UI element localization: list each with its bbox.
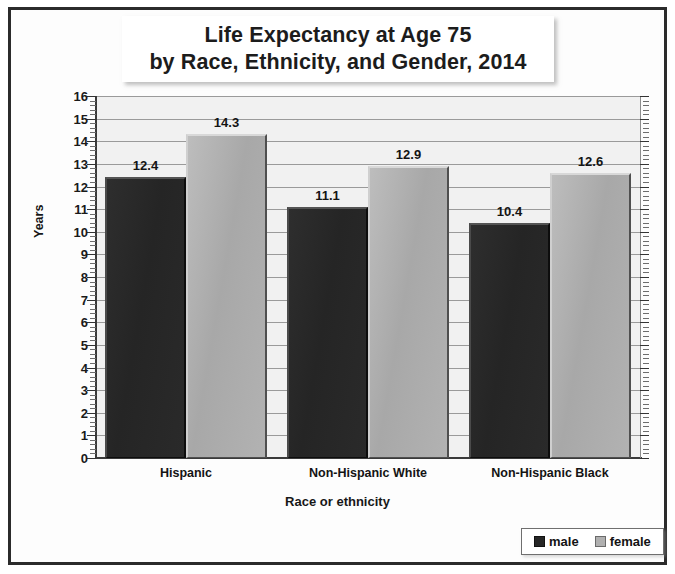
legend-swatch-icon [534, 536, 545, 547]
axis-tick-minor [90, 372, 96, 373]
axis-tick-major [87, 119, 96, 120]
bar-value-label: 12.9 [368, 147, 449, 162]
axis-tick-major [640, 164, 649, 165]
axis-tick-major [87, 413, 96, 414]
axis-tick-minor [643, 114, 649, 115]
axis-tick-minor [643, 336, 649, 337]
axis-tick-minor [643, 381, 649, 382]
axis-tick-minor [643, 404, 649, 405]
y-axis-tick-label: 9 [62, 248, 88, 261]
legend-swatch-icon [595, 536, 606, 547]
y-axis-tick-label: 4 [62, 362, 88, 375]
axis-tick-minor [90, 363, 96, 364]
axis-tick-minor [90, 377, 96, 378]
axis-tick-minor [90, 381, 96, 382]
axis-tick-minor [90, 318, 96, 319]
chart-title-box: Life Expectancy at Age 75 by Race, Ethni… [122, 16, 554, 82]
axis-tick-minor [90, 426, 96, 427]
axis-tick-minor [90, 286, 96, 287]
axis-tick-minor [90, 123, 96, 124]
axis-tick-minor [90, 295, 96, 296]
axis-tick-minor [90, 440, 96, 441]
axis-tick-minor [643, 132, 649, 133]
axis-tick-minor [643, 150, 649, 151]
y-axis-tick-label: 1 [62, 429, 88, 442]
axis-tick-major [640, 96, 649, 97]
x-axis-title: Race or ethnicity [0, 494, 675, 509]
bar-value-label: 11.1 [287, 188, 368, 203]
axis-tick-minor [643, 101, 649, 102]
axis-tick-major [640, 322, 649, 323]
axis-tick-major [87, 209, 96, 210]
axis-tick-minor [90, 146, 96, 147]
axis-tick-minor [90, 250, 96, 251]
axis-tick-minor [643, 349, 649, 350]
axis-tick-minor [643, 196, 649, 197]
axis-tick-minor [643, 444, 649, 445]
axis-tick-minor [643, 426, 649, 427]
axis-tick-minor [90, 101, 96, 102]
y-axis-tick-label: 2 [62, 407, 88, 420]
axis-tick-minor [90, 150, 96, 151]
axis-tick-minor [90, 137, 96, 138]
axis-tick-minor [90, 159, 96, 160]
y-axis-tick-label: 11 [62, 203, 88, 216]
axis-tick-minor [643, 272, 649, 273]
axis-tick-major [640, 300, 649, 301]
axis-tick-minor [90, 358, 96, 359]
axis-tick-minor [90, 263, 96, 264]
axis-tick-minor [90, 268, 96, 269]
axis-tick-minor [643, 214, 649, 215]
axis-tick-minor [643, 313, 649, 314]
axis-tick-minor [90, 223, 96, 224]
axis-tick-minor [90, 272, 96, 273]
chart-legend: malefemale [521, 528, 664, 555]
axis-tick-major [87, 254, 96, 255]
legend-item-female[interactable]: female [595, 534, 651, 549]
axis-tick-minor [90, 218, 96, 219]
x-axis-category-label: Non-Hispanic White [277, 466, 459, 480]
axis-tick-major [87, 345, 96, 346]
axis-tick-minor [90, 214, 96, 215]
chart-title-line-1: Life Expectancy at Age 75 [205, 22, 472, 49]
axis-tick-minor [90, 327, 96, 328]
y-axis-tick-label: 16 [62, 90, 88, 103]
axis-tick-minor [90, 227, 96, 228]
y-axis-tick-label: 5 [62, 339, 88, 352]
y-axis-tick-label: 3 [62, 384, 88, 397]
axis-tick-minor [643, 422, 649, 423]
axis-tick-major [87, 390, 96, 391]
bar-female-non-hispanic-white [368, 166, 449, 458]
axis-tick-minor [90, 200, 96, 201]
legend-label: male [549, 534, 579, 549]
axis-tick-major [640, 390, 649, 391]
y-axis-tick-label: 7 [62, 294, 88, 307]
axis-tick-minor [643, 259, 649, 260]
axis-tick-major [640, 435, 649, 436]
axis-tick-minor [90, 336, 96, 337]
bar-female-hispanic [186, 134, 267, 458]
axis-tick-minor [643, 363, 649, 364]
axis-tick-major [640, 345, 649, 346]
axis-tick-minor [90, 309, 96, 310]
axis-tick-minor [643, 159, 649, 160]
axis-tick-minor [90, 282, 96, 283]
axis-tick-minor [643, 191, 649, 192]
axis-tick-minor [90, 444, 96, 445]
y-axis-tick-label: 0 [62, 452, 88, 465]
axis-tick-minor [643, 218, 649, 219]
axis-tick-minor [90, 105, 96, 106]
y-axis-tick-label: 10 [62, 226, 88, 239]
axis-tick-major [640, 187, 649, 188]
axis-tick-major [87, 141, 96, 142]
axis-tick-minor [643, 354, 649, 355]
legend-item-male[interactable]: male [534, 534, 579, 549]
axis-tick-major [640, 232, 649, 233]
axis-tick-major [87, 458, 96, 459]
axis-tick-major [640, 209, 649, 210]
axis-tick-major [87, 322, 96, 323]
axis-tick-minor [643, 399, 649, 400]
axis-tick-major [87, 300, 96, 301]
axis-tick-minor [90, 422, 96, 423]
y-axis-tick-labels: 012345678910111213141516 [58, 96, 88, 458]
